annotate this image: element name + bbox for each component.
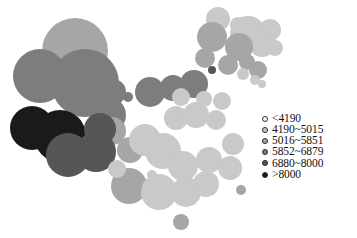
bubble-marker [84,113,116,145]
bubble-marker [222,133,244,155]
bubble-marker [196,91,212,107]
bubble-marker [218,156,242,180]
bubble-marker [267,40,283,56]
cartogram-figure: <41904190~50155016~58515852~68796880~800… [0,0,357,238]
bubble-marker [147,170,157,180]
bubble-layer [10,7,283,230]
bubble-marker [195,48,215,68]
value-class-legend: <41904190~50155016~58515852~68796880~800… [262,113,357,180]
legend-swatch-icon [262,138,268,144]
legend-swatch-icon [262,127,268,133]
bubble-marker [213,92,231,110]
bubble-marker [197,22,227,52]
legend-label: >8000 [272,169,301,181]
bubble-marker [258,80,266,88]
bubble-marker [135,77,165,107]
bubble-marker [218,55,238,75]
bubble-marker [208,66,216,74]
bubble-marker [172,88,190,106]
legend-swatch-icon [262,116,268,122]
bubble-marker [237,68,249,80]
bubble-marker [123,92,133,102]
legend-item: >8000 [262,169,357,180]
bubble-marker [193,171,219,197]
bubble-marker [108,160,126,178]
bubble-marker [206,110,226,130]
legend-swatch-icon [262,149,268,155]
legend-swatch-icon [262,172,268,178]
bubble-marker [173,214,189,230]
bubble-marker [168,151,198,181]
bubble-marker [236,185,246,195]
legend-swatch-icon [262,160,268,166]
